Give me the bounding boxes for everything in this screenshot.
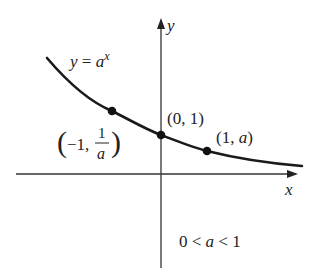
point-one-a — [203, 147, 212, 156]
x-axis-label: x — [284, 180, 293, 199]
point-zero-one — [157, 131, 166, 140]
point-neg-one — [108, 107, 117, 116]
y-axis-arrow-icon — [157, 18, 165, 29]
label-one-a: (1, a) — [216, 128, 253, 147]
svg-text:(: ( — [57, 125, 67, 159]
label-zero-one: (0, 1) — [167, 109, 204, 128]
function-label: y = ax — [68, 49, 110, 71]
label-neg-one: ( −1, 1 a ) — [57, 125, 121, 162]
svg-text:a: a — [97, 145, 105, 162]
y-axis-label: y — [165, 16, 175, 35]
exponential-graph: y x y = ax ( −1, 1 a ) (0, 1) (1, a) 0 <… — [0, 0, 317, 275]
condition-label: 0 < a < 1 — [179, 232, 241, 251]
svg-text:): ) — [111, 125, 121, 159]
x-axis-arrow-icon — [287, 170, 298, 178]
svg-text:−1,: −1, — [67, 135, 89, 154]
svg-text:1: 1 — [98, 125, 106, 141]
